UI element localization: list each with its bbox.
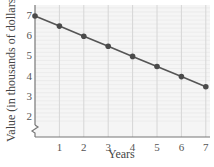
- x-tick-label: 1: [54, 141, 64, 153]
- data-point: [32, 13, 38, 19]
- data-point: [57, 23, 63, 29]
- data-point: [81, 33, 87, 39]
- y-tick-label: 4: [24, 70, 32, 82]
- y-axis-label: Value (in thousands of dollars): [4, 2, 20, 142]
- y-tick-label: 6: [24, 29, 32, 41]
- x-tick-label: 3: [103, 141, 113, 153]
- y-tick-label: 7: [24, 9, 32, 21]
- x-tick-label: 5: [152, 141, 162, 153]
- data-point: [154, 64, 160, 70]
- data-point: [179, 74, 185, 80]
- x-tick-label: 4: [128, 141, 138, 153]
- y-tick-label: 3: [24, 90, 32, 102]
- x-tick-label: 2: [79, 141, 89, 153]
- y-tick-label: 2: [24, 110, 32, 122]
- y-tick-label: 5: [24, 49, 32, 61]
- data-point: [130, 54, 136, 60]
- x-tick-label: 7: [201, 141, 211, 153]
- x-tick-label: 6: [176, 141, 186, 153]
- data-point: [203, 84, 209, 90]
- data-point: [105, 44, 111, 50]
